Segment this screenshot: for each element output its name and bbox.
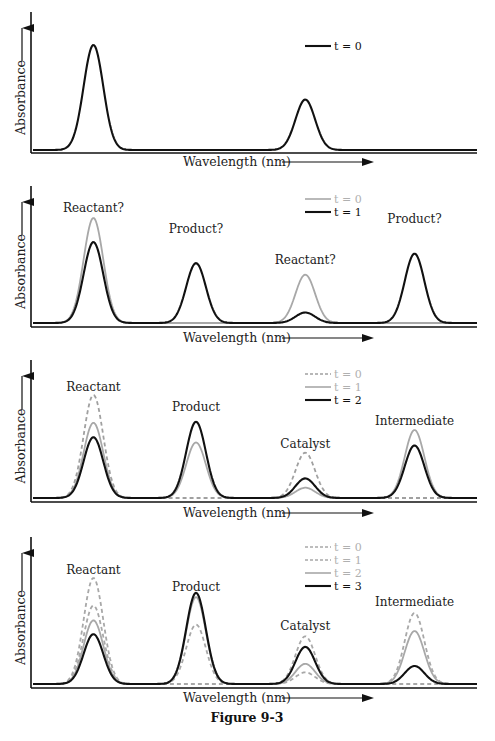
legend-label: t = 0 — [334, 40, 362, 53]
y-axis-label: Absorbance — [13, 60, 28, 136]
x-axis-label: Wavelength (nm) — [183, 154, 291, 169]
peak-label: Product? — [169, 222, 223, 236]
peak-label: Product? — [387, 212, 441, 226]
x-axis-arrowhead — [362, 694, 374, 702]
legend-label: t = 1 — [334, 554, 362, 567]
x-axis-label: Wavelength (nm) — [183, 690, 291, 705]
series-line-t1 — [33, 242, 477, 323]
peak-label: Product — [172, 580, 220, 594]
legend-label: t = 1 — [334, 206, 362, 219]
legend-label: t = 2 — [334, 567, 362, 580]
y-axis-label: Absorbance — [13, 234, 28, 310]
peak-label: Reactant? — [63, 201, 124, 215]
legend-label: t = 0 — [334, 193, 362, 206]
peak-label: Catalyst — [280, 619, 330, 633]
peak-label: Catalyst — [280, 437, 330, 451]
x-axis-arrowhead — [362, 158, 374, 166]
legend-label: t = 1 — [334, 381, 362, 394]
series-line-t0 — [33, 45, 477, 150]
legend-label: t = 2 — [334, 394, 362, 407]
x-axis-arrowhead — [362, 334, 374, 342]
y-axis-label: Absorbance — [13, 590, 28, 666]
series-line-t0 — [33, 218, 477, 323]
peak-label: Reactant? — [275, 253, 336, 267]
spectrum-panel-2: AbsorbanceWavelength (nm)t = 0t = 1React… — [13, 186, 477, 345]
peak-label: Product — [172, 400, 220, 414]
y-axis-label: Absorbance — [13, 409, 28, 485]
legend-label: t = 0 — [334, 368, 362, 381]
spectrum-panel-4: AbsorbanceWavelength (nm)t = 0t = 1t = 2… — [13, 537, 477, 705]
legend-label: t = 3 — [334, 580, 362, 593]
peak-label: Intermediate — [375, 414, 454, 428]
spectrum-panel-1: AbsorbanceWavelength (nm)t = 0 — [13, 12, 477, 169]
peak-label: Intermediate — [375, 595, 454, 609]
x-axis-arrowhead — [362, 509, 374, 517]
figure-caption: Figure 9-3 — [211, 710, 284, 725]
legend-label: t = 0 — [334, 541, 362, 554]
x-axis-label: Wavelength (nm) — [183, 330, 291, 345]
spectrum-panel-3: AbsorbanceWavelength (nm)t = 0t = 1t = 2… — [13, 360, 477, 520]
x-axis-label: Wavelength (nm) — [183, 505, 291, 520]
peak-label: Reactant — [66, 380, 121, 394]
peak-label: Reactant — [66, 563, 121, 577]
figure-9-3: AbsorbanceWavelength (nm)t = 0Absorbance… — [0, 0, 495, 741]
series-line-t1 — [33, 423, 477, 498]
